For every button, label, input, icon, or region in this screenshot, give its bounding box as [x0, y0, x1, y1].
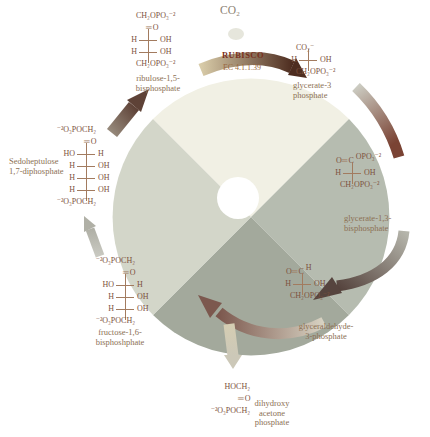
structure-row: ⁻²O₃POCH₂	[85, 315, 135, 327]
structure-dihydroxyacetone-phosphate: HOCH₂═O⁻²O₃POCH₂	[183, 381, 250, 417]
structure-fructose-16-bisphosphate: ⁻²O₃POCH₂═OHOHHOHHOH⁻²O₃POCH₂	[85, 255, 149, 327]
label-sedoheptulose-17-diphosphate: Sedoheptulose1,7-diphosphate	[9, 157, 64, 176]
structure-row: CH₂OPO₃⁻²	[282, 66, 335, 78]
structure-row: HOH	[85, 303, 149, 315]
structure-row: O═COPO₃⁻²	[334, 155, 381, 167]
cycle-center-hole	[217, 177, 259, 219]
structure-row: HOCH₂	[183, 381, 250, 393]
structure-row: ⁻²O₃POCH₂	[40, 196, 96, 208]
structure-row: ⁻²O₃POCH₂	[85, 255, 135, 267]
co2-label: CO₂	[220, 4, 240, 16]
arrow-left-up	[84, 216, 100, 256]
structure-row: HOH	[282, 54, 335, 66]
calvin-cycle-diagram: { "co2": "CO₂", "rubisco": { "label": "R…	[0, 0, 430, 437]
structure-row: ⁻²O₃POCH₂	[183, 405, 250, 417]
structure-row: HOH	[85, 291, 149, 303]
arrow-upper-left	[112, 89, 149, 133]
arrow-down-arrowhead	[224, 355, 242, 369]
structure-row: HOH	[85, 279, 149, 291]
label-glycerate-13-bisphosphate: glycerate-1,3-bisphosphate	[344, 214, 391, 233]
structure-row: HOH	[120, 46, 175, 58]
structure-row: ═O	[40, 136, 110, 148]
structure-row: ⁻²O₃POCH₂	[40, 124, 96, 136]
label-glycerate-3-phosphate: glycerate-3phosphate	[293, 81, 331, 100]
structure-row: ═O	[85, 267, 149, 279]
structure-row: CH₂OPO₃⁻²	[120, 10, 175, 22]
structure-glycerate-3-phosphate: CO₂⁻HOHCH₂OPO₃⁻²	[282, 42, 335, 78]
structure-row: HOH	[282, 278, 329, 290]
structure-row: CH₂OPO₃⁻²	[334, 179, 381, 191]
co2-dot	[228, 28, 244, 40]
structure-row: CH₂OPO₃⁻²	[282, 290, 329, 302]
rubisco-ec-label: EC 4.1.1.39	[212, 63, 272, 72]
structure-glycerate-13-bisphosphate: O═COPO₃⁻²HOHCH₂OPO₃⁻²	[334, 155, 381, 191]
structure-row: HOH	[40, 184, 110, 196]
label-glyceraldehyde-3-phosphate: glyceraldehyde-3-phosphate	[290, 322, 362, 341]
structure-row: ═O	[183, 393, 250, 405]
structure-row: HOH	[334, 167, 381, 179]
structure-row: O═CH	[282, 266, 329, 278]
label-fructose-16-bisphosphate: fructose-1,6-bisphoshphate	[88, 328, 152, 347]
structure-ribulose-15-bisphosphate: CH₂OPO₃⁻²═OHOHHOHCH₂OPO₃⁻²	[120, 10, 175, 70]
rubisco-label: RUBISCO	[218, 50, 268, 60]
structure-row: CH₂OPO₃⁻²	[120, 58, 175, 70]
structure-glyceraldehyde-3-phosphate: O═CHHOHCH₂OPO₃⁻²	[282, 266, 329, 302]
label-dihydroxyacetone-phosphate: dihydroxyacetonephosphate	[250, 399, 294, 428]
label-ribulose-15-bisphosphate: ribulose-1,5-bisphosphate	[116, 74, 200, 93]
